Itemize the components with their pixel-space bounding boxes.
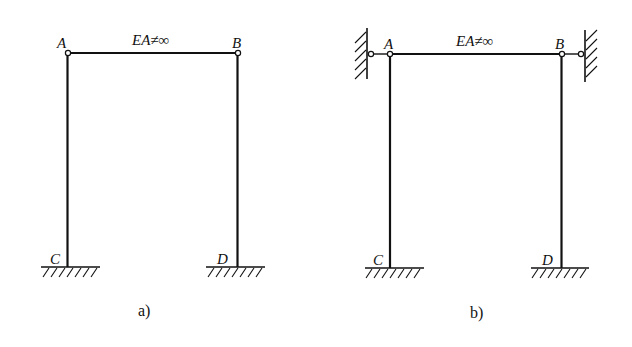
node-label-c: C (50, 251, 61, 267)
fixed-support-d-icon (531, 268, 589, 278)
node-label-c: C (373, 252, 384, 268)
wall-support-right-icon (585, 30, 597, 82)
hinge-a-icon (387, 51, 392, 56)
figure-canvas: A B C D EA≠∞ a) (0, 0, 632, 347)
node-label-a: A (383, 36, 394, 52)
beam-stiffness-label: EA≠∞ (455, 33, 494, 49)
node-label-b: B (555, 36, 564, 52)
panel-caption-b: b) (470, 304, 483, 322)
fixed-support-c-icon (41, 267, 100, 277)
node-label-d: D (216, 251, 228, 267)
panel-b: A B C D EA≠∞ b) (355, 28, 597, 322)
hinge-b-icon (235, 50, 240, 55)
fixed-support-d-icon (206, 267, 265, 277)
node-label-b: B (232, 35, 241, 51)
beam-stiffness-label: EA≠∞ (131, 32, 170, 48)
fixed-support-c-icon (365, 268, 424, 278)
node-label-a: A (56, 35, 67, 51)
hinge-a-icon (65, 50, 70, 55)
hinge-b-icon (559, 51, 564, 56)
wall-support-left-icon (355, 28, 367, 79)
panel-a: A B C D EA≠∞ a) (41, 32, 265, 320)
hinge-wall-left-icon (368, 51, 373, 56)
panel-caption-a: a) (138, 302, 150, 320)
node-label-d: D (541, 252, 553, 268)
hinge-wall-right-icon (578, 51, 583, 56)
